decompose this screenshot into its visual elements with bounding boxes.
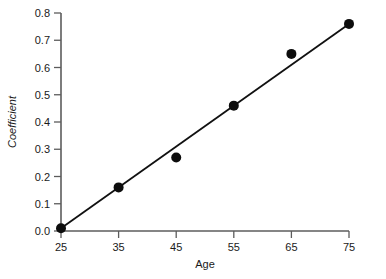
x-tick-label: 25 xyxy=(55,241,67,253)
data-point xyxy=(171,152,181,162)
y-tick-labels: 0.00.10.20.30.40.50.60.70.8 xyxy=(35,7,50,237)
data-point xyxy=(114,182,124,192)
data-point xyxy=(286,49,296,59)
y-axis-title: Coefficient xyxy=(6,95,18,148)
x-tick-label: 75 xyxy=(343,241,355,253)
x-tick-label: 45 xyxy=(170,241,182,253)
y-tick-label: 0.7 xyxy=(35,34,50,46)
chart-background xyxy=(0,0,386,279)
x-tick-label: 65 xyxy=(285,241,297,253)
chart-figure: 0.00.10.20.30.40.50.60.70.8 Coefficient … xyxy=(0,0,386,279)
x-tick-label: 35 xyxy=(112,241,124,253)
scatter-plot: 0.00.10.20.30.40.50.60.70.8 Coefficient … xyxy=(0,0,386,279)
data-point xyxy=(56,223,66,233)
y-tick-label: 0.5 xyxy=(35,89,50,101)
x-tick-label: 55 xyxy=(228,241,240,253)
y-tick-label: 0.0 xyxy=(35,225,50,237)
y-tick-label: 0.3 xyxy=(35,143,50,155)
y-tick-label: 0.2 xyxy=(35,171,50,183)
y-tick-label: 0.1 xyxy=(35,198,50,210)
y-tick-label: 0.4 xyxy=(35,116,50,128)
x-axis-title: Age xyxy=(195,258,215,270)
y-tick-label: 0.8 xyxy=(35,7,50,19)
data-point xyxy=(229,101,239,111)
data-point xyxy=(344,19,354,29)
y-tick-label: 0.6 xyxy=(35,62,50,74)
